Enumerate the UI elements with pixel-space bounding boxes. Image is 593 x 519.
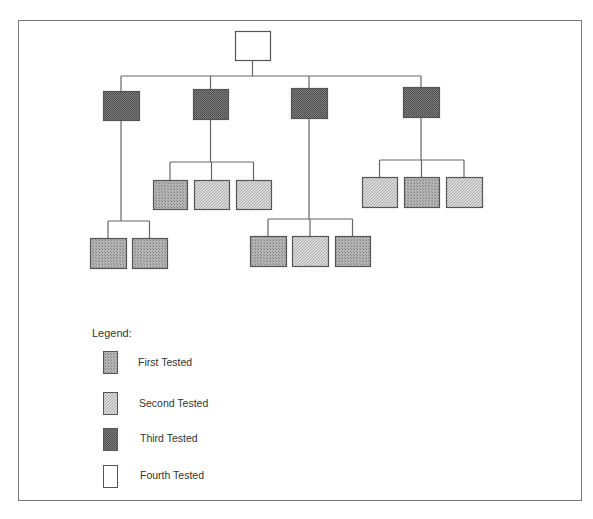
legend-label-fourth-tested: Fourth Tested: [140, 469, 204, 481]
legend-label-third-tested: Third Tested: [140, 432, 198, 444]
legend-swatch-third-tested: [104, 429, 118, 451]
test-order-tree-diagram: Legend: First Tested Second Tested Third…: [0, 0, 593, 519]
legend-label-second-tested: Second Tested: [139, 397, 208, 409]
node-box-second-tested: [447, 178, 483, 208]
legend-swatch-fourth-tested: [104, 466, 118, 488]
connector-lines: [108, 60, 464, 238]
node-box-first-tested: [91, 239, 127, 269]
node-box-second-tested: [293, 237, 329, 267]
node-box-first-tested: [133, 239, 168, 269]
node-box-first-tested: [251, 237, 287, 267]
node-box-second-tested: [363, 178, 398, 208]
node-box-third-tested: [194, 90, 229, 120]
node-box-first-tested: [154, 181, 188, 210]
legend-swatches: [104, 352, 118, 488]
diagram-svg: [0, 0, 593, 519]
node-box-third-tested: [404, 88, 440, 118]
legend-swatch-second-tested: [104, 393, 118, 415]
node-box-fourth-tested: [236, 32, 271, 61]
legend-swatch-first-tested: [104, 352, 118, 374]
node-box-third-tested: [292, 89, 328, 119]
node-box-first-tested: [405, 178, 440, 208]
node-box-second-tested: [195, 181, 230, 210]
legend-title: Legend:: [92, 327, 132, 339]
node-box-first-tested: [336, 237, 371, 267]
node-box-third-tested: [104, 92, 140, 121]
legend-label-first-tested: First Tested: [138, 356, 192, 368]
node-box-second-tested: [237, 181, 272, 210]
